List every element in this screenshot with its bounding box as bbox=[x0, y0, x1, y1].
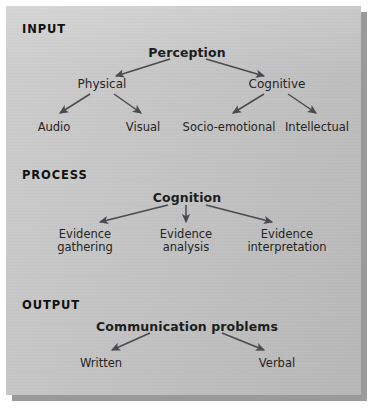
node-evidence-gathering-line1: Evidence bbox=[57, 228, 113, 241]
node-written: Written bbox=[80, 357, 122, 370]
edge-perception-physical bbox=[116, 59, 170, 76]
node-audio: Audio bbox=[38, 121, 71, 134]
edge-perception-cognitive bbox=[206, 59, 264, 76]
edge-cognitive-intellectual bbox=[288, 94, 316, 113]
section-label-process: PROCESS bbox=[22, 168, 88, 182]
arrow-layer bbox=[0, 0, 372, 417]
edge-cognitive-socio-emotional bbox=[233, 94, 264, 113]
node-physical: Physical bbox=[78, 78, 127, 91]
node-evidence-interpretation-line1: Evidence bbox=[247, 228, 326, 241]
node-cognitive: Cognitive bbox=[249, 78, 306, 91]
edge-cognition-evidence-gathering bbox=[100, 205, 168, 222]
node-evidence-gathering: Evidence gathering bbox=[57, 228, 113, 254]
node-evidence-analysis: Evidence analysis bbox=[160, 228, 212, 254]
node-evidence-analysis-line1: Evidence bbox=[160, 228, 212, 241]
edge-cognition-evidence-interpretation bbox=[206, 205, 272, 222]
node-communication-problems: Communication problems bbox=[96, 320, 278, 334]
edge-physical-audio bbox=[60, 94, 90, 113]
node-evidence-gathering-line2: gathering bbox=[57, 241, 113, 254]
node-cognition: Cognition bbox=[153, 191, 222, 205]
figure-canvas: INPUT PROCESS OUTPUT Perception Physical… bbox=[0, 0, 372, 417]
node-intellectual: Intellectual bbox=[285, 121, 349, 134]
section-label-input: INPUT bbox=[22, 22, 66, 36]
node-visual: Visual bbox=[126, 121, 160, 134]
edge-communication-verbal bbox=[222, 333, 264, 350]
node-verbal: Verbal bbox=[259, 357, 295, 370]
edge-physical-visual bbox=[114, 94, 141, 113]
node-socio-emotional: Socio-emotional bbox=[183, 121, 276, 134]
node-evidence-interpretation-line2: interpretation bbox=[247, 241, 326, 254]
node-perception: Perception bbox=[148, 46, 225, 60]
section-label-output: OUTPUT bbox=[22, 298, 80, 312]
node-evidence-analysis-line2: analysis bbox=[160, 241, 212, 254]
node-evidence-interpretation: Evidence interpretation bbox=[247, 228, 326, 254]
edge-communication-written bbox=[112, 333, 150, 350]
